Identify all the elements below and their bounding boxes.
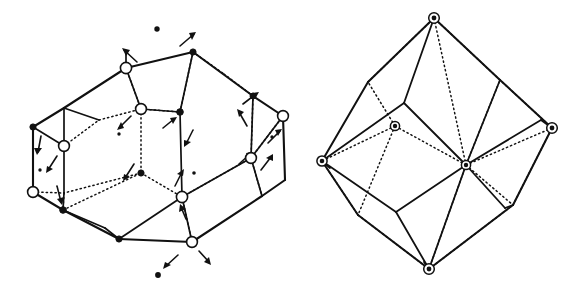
circled-dot-vertex bbox=[429, 13, 440, 24]
displacement-arrow bbox=[123, 164, 134, 181]
left-solid-edges bbox=[33, 52, 285, 242]
open-circle-vertex bbox=[120, 62, 131, 73]
free-dot bbox=[192, 171, 196, 175]
displacement-arrow bbox=[117, 116, 131, 130]
free-dot bbox=[38, 168, 41, 171]
open-circle-vertex bbox=[246, 153, 257, 164]
circled-dot-vertex bbox=[424, 264, 435, 275]
free-dot bbox=[155, 272, 161, 278]
filled-dot-vertex bbox=[177, 109, 184, 116]
left-panel-group bbox=[28, 26, 289, 278]
filled-dot-vertex bbox=[60, 207, 67, 214]
open-circle-vertex bbox=[28, 187, 39, 198]
free-dot bbox=[154, 26, 159, 31]
displacement-arrow bbox=[184, 130, 193, 147]
displacement-arrow bbox=[34, 136, 42, 155]
displacement-arrow bbox=[46, 156, 57, 173]
left-open-vertices bbox=[28, 62, 289, 247]
filled-dot-vertex bbox=[250, 93, 256, 99]
right-hidden-edges bbox=[322, 18, 552, 269]
figure-root bbox=[0, 0, 575, 294]
open-circle-vertex bbox=[136, 104, 147, 115]
filled-dot-vertex bbox=[30, 124, 36, 130]
polyhedra-figure-svg bbox=[0, 0, 575, 294]
circled-dot-vertex bbox=[461, 160, 470, 169]
filled-dot-vertex bbox=[138, 170, 144, 176]
displacement-arrow bbox=[261, 154, 273, 170]
free-dot bbox=[117, 132, 120, 135]
free-dot bbox=[270, 135, 273, 138]
circled-dot-vertex bbox=[390, 121, 399, 130]
displacement-arrow bbox=[122, 48, 137, 62]
displacement-arrow bbox=[237, 109, 247, 126]
displacement-arrow bbox=[199, 251, 211, 265]
right-panel-group bbox=[317, 13, 557, 275]
open-circle-vertex bbox=[176, 191, 187, 202]
displacement-arrow bbox=[163, 255, 178, 269]
circled-dot-vertex bbox=[317, 156, 327, 166]
open-circle-vertex bbox=[59, 141, 70, 152]
circled-dot-vertex bbox=[547, 123, 558, 134]
left-displacement-arrows bbox=[34, 32, 282, 269]
right-solid-edges bbox=[322, 18, 552, 269]
displacement-arrow bbox=[175, 169, 184, 186]
open-circle-vertex bbox=[187, 237, 198, 248]
right-ring-vertices bbox=[317, 13, 557, 275]
displacement-arrow bbox=[163, 117, 177, 128]
filled-dot-vertex bbox=[190, 49, 196, 55]
filled-dot-vertex bbox=[116, 236, 122, 242]
open-circle-vertex bbox=[278, 111, 289, 122]
displacement-arrow bbox=[180, 32, 196, 46]
displacement-arrow bbox=[268, 129, 282, 143]
